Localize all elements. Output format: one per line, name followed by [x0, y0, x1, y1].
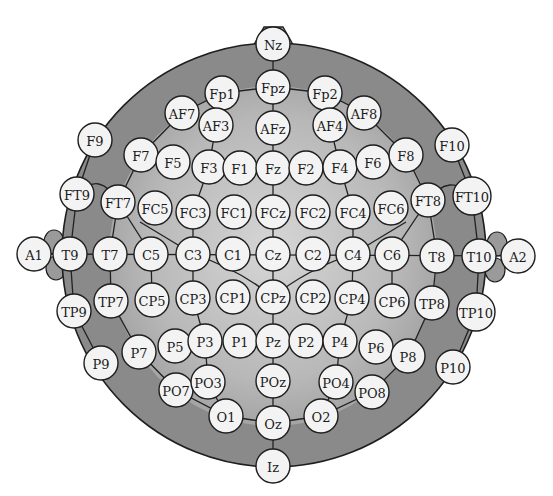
- electrode-label: FC2: [299, 206, 326, 221]
- electrode-cp6: CP6: [375, 284, 409, 318]
- electrode-label: PO7: [162, 384, 190, 399]
- electrode-label: Fp1: [209, 87, 235, 102]
- electrode-label: FT9: [64, 188, 90, 203]
- electrode-p10: P10: [436, 350, 470, 384]
- electrode-fc4: FC4: [336, 195, 370, 229]
- electrode-oz: Oz: [256, 406, 290, 440]
- electrode-label: T7: [102, 248, 119, 263]
- electrode-label: T9: [62, 248, 79, 263]
- electrode-c6: C6: [375, 237, 409, 271]
- electrode-af3: AF3: [199, 108, 233, 142]
- electrode-p3: P3: [188, 324, 222, 358]
- electrode-label: C3: [184, 248, 202, 263]
- electrode-label: CP2: [300, 291, 327, 306]
- electrode-f8: F8: [389, 138, 423, 172]
- electrode-label: C4: [344, 248, 362, 263]
- electrode-o2: O2: [304, 399, 338, 433]
- electrode-po7: PO7: [159, 373, 193, 407]
- electrode-fc5: FC5: [138, 191, 172, 225]
- electrode-f5: F5: [156, 145, 190, 179]
- electrode-label: T8: [429, 250, 446, 265]
- electrode-f2: F2: [289, 151, 323, 185]
- electrode-f4: F4: [323, 150, 357, 184]
- electrode-label: P7: [130, 346, 147, 361]
- electrode-label: FC4: [339, 206, 366, 221]
- electrode-o1: O1: [209, 399, 243, 433]
- electrode-ft8: FT8: [411, 183, 445, 217]
- electrode-label: POz: [260, 375, 286, 390]
- electrode-af4: AF4: [313, 108, 347, 142]
- electrode-label: O2: [312, 410, 331, 425]
- electrode-label: F1: [231, 162, 248, 177]
- electrode-af7: AF7: [165, 96, 199, 130]
- electrode-fp1: Fp1: [205, 76, 239, 110]
- electrode-tp7: TP7: [94, 284, 128, 318]
- electrode-label: P10: [440, 361, 465, 376]
- electrode-f1: F1: [223, 151, 257, 185]
- electrode-po3: PO3: [191, 365, 225, 399]
- electrode-label: P4: [331, 335, 348, 350]
- electrode-t7: T7: [93, 237, 127, 271]
- electrode-label: P5: [166, 340, 183, 355]
- electrode-c2: C2: [296, 237, 330, 271]
- electrode-label: F3: [200, 161, 217, 176]
- eeg-electrode-map: NzFp1FpzFp2AF7AF3AFzAF4AF8F9F7F5F3F1FzF2…: [0, 0, 553, 496]
- electrode-label: O1: [217, 410, 236, 425]
- electrode-p1: P1: [223, 324, 257, 358]
- electrode-t10: T10: [462, 239, 496, 273]
- electrode-label: Fpz: [261, 81, 285, 96]
- electrode-label: P3: [196, 335, 213, 350]
- electrode-ft10: FT10: [453, 177, 491, 215]
- electrode-label: FC6: [377, 202, 404, 217]
- electrode-fp2: Fp2: [308, 76, 342, 110]
- electrode-label: CP3: [180, 292, 207, 307]
- electrode-f7: F7: [124, 138, 158, 172]
- electrode-cp5: CP5: [135, 283, 169, 317]
- electrode-label: FT7: [105, 196, 131, 211]
- electrode-tp9: TP9: [57, 294, 91, 328]
- electrode-fc3: FC3: [176, 195, 210, 229]
- electrode-label: Iz: [267, 460, 279, 475]
- electrode-label: P9: [92, 357, 109, 372]
- electrode-cp2: CP2: [296, 280, 330, 314]
- electrode-ft7: FT7: [101, 185, 135, 219]
- electrode-tp8: TP8: [415, 286, 449, 320]
- electrode-ft9: FT9: [60, 177, 94, 211]
- electrode-p8: P8: [391, 339, 425, 373]
- electrode-a1: A1: [17, 237, 51, 271]
- electrode-p5: P5: [158, 329, 192, 363]
- electrode-label: TP9: [61, 305, 87, 320]
- electrode-fc1: FC1: [217, 195, 251, 229]
- electrode-label: A1: [24, 248, 43, 263]
- electrode-label: F5: [164, 156, 181, 171]
- electrode-af8: AF8: [347, 96, 381, 130]
- electrode-f3: F3: [192, 150, 226, 184]
- electrode-f10: F10: [435, 128, 469, 162]
- electrode-label: C2: [304, 248, 322, 263]
- electrode-label: AF4: [316, 119, 344, 134]
- electrode-label: TP7: [98, 295, 124, 310]
- electrode-label: AF7: [168, 107, 196, 122]
- electrode-cz: Cz: [256, 237, 290, 271]
- electrode-label: F9: [86, 134, 103, 149]
- electrode-label: PO4: [322, 376, 350, 391]
- electrode-p4: P4: [323, 324, 357, 358]
- electrode-label: Oz: [264, 417, 282, 432]
- electrode-label: Nz: [264, 38, 282, 53]
- electrode-label: FCz: [260, 206, 286, 221]
- electrode-label: Cz: [265, 248, 282, 263]
- electrode-label: P8: [399, 350, 416, 365]
- electrode-label: C5: [142, 248, 160, 263]
- electrode-po8: PO8: [355, 375, 389, 409]
- electrode-label: TP10: [459, 306, 493, 321]
- electrode-label: F10: [439, 139, 465, 154]
- electrode-label: PO3: [194, 376, 222, 391]
- electrode-f9: F9: [78, 123, 112, 157]
- electrode-po4: PO4: [319, 365, 353, 399]
- electrode-p6: P6: [359, 330, 393, 364]
- electrode-fpz: Fpz: [256, 70, 290, 104]
- electrode-c3: C3: [176, 237, 210, 271]
- electrode-cpz: CPz: [256, 280, 290, 314]
- electrode-c1: C1: [216, 237, 250, 271]
- electrode-t9: T9: [53, 237, 87, 271]
